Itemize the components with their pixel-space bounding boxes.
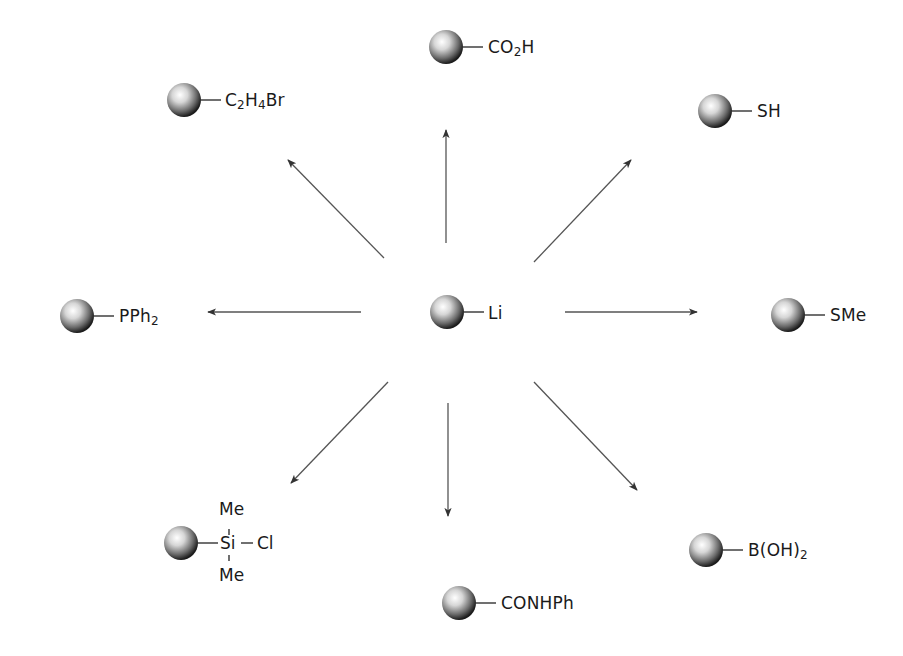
center-li-bead-icon — [430, 295, 464, 329]
c2h4br-bead-icon — [167, 83, 201, 117]
c2h4br-label: C2H4Br — [225, 90, 285, 110]
reaction-arrow-7 — [534, 382, 637, 490]
reaction-arrow-2 — [534, 160, 631, 262]
co2h-bead-icon — [429, 30, 463, 64]
sh-bead-icon — [698, 94, 732, 128]
boh2-label: B(OH)2 — [748, 540, 808, 560]
center-li-label: Li — [488, 303, 503, 323]
sme-bead-icon — [771, 298, 805, 332]
reaction-arrow-1 — [288, 160, 384, 258]
boh2-bead-icon — [689, 533, 723, 567]
co2h-label: CO2H — [488, 37, 534, 57]
pph2-bead-icon — [60, 299, 94, 333]
conhph-bead-icon — [442, 586, 476, 620]
sime2cl-bead-icon — [164, 526, 198, 560]
sme-label: SMe — [830, 305, 867, 325]
sh-label: SH — [757, 101, 781, 121]
conhph-label: CONHPh — [501, 593, 574, 613]
pph2-label: PPh2 — [119, 306, 159, 326]
reaction-arrow-5 — [291, 382, 388, 483]
resin-beads — [60, 30, 825, 620]
